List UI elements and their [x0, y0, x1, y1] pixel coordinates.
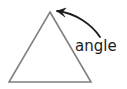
diagram-canvas: angle: [0, 0, 127, 89]
angle-diagram-figure: angle: [0, 0, 127, 89]
angle-label: angle: [75, 37, 117, 55]
